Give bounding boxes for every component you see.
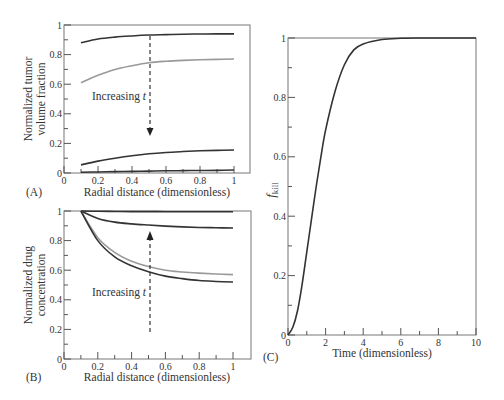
x-tick-label: 8 [436, 337, 441, 348]
panel-b-annotation: Increasing t [92, 286, 147, 299]
series-line-t4 [81, 211, 233, 282]
series-line-t3 [81, 150, 234, 165]
y-tick-label: 0.6 [50, 79, 63, 90]
panel-b-ylabel-line2: concentration [35, 253, 47, 316]
figure-canvas: 00.20.40.60.8100.20.40.60.81 Increasing … [0, 0, 504, 400]
panel-a-series [81, 34, 234, 172]
y-tick-label: 0.8 [50, 49, 63, 60]
x-tick-label: 0 [286, 337, 291, 348]
y-tick-label: 0.4 [50, 108, 63, 119]
y-tick-label: 0.6 [50, 265, 63, 276]
x-tick-label: 1 [231, 361, 236, 372]
x-tick-label: 0.4 [126, 175, 139, 186]
x-tick-label: 1 [232, 175, 237, 186]
panel-b-ylabel-line1: Normalized drug [22, 246, 35, 324]
series-line-t2 [81, 211, 233, 228]
x-tick-label: 0.8 [194, 175, 207, 186]
x-tick-label: 0 [62, 175, 67, 186]
y-tick-label: 0.2 [50, 324, 63, 335]
y-tick-label: 0 [57, 354, 62, 365]
panel-b-label: (B) [26, 371, 42, 384]
arrow-up-icon [147, 231, 154, 240]
x-tick-label: 10 [471, 337, 481, 348]
x-tick-label: 0.2 [92, 175, 105, 186]
panel-a-ylabel-line2: volume fraction [35, 62, 47, 135]
y-tick-label: 0.4 [50, 294, 63, 305]
y-tick-label: 0 [281, 330, 286, 341]
x-tick-label: 0.6 [160, 175, 173, 186]
y-tick-label: 1 [281, 33, 286, 44]
panel-a-label: (A) [26, 186, 42, 199]
panel-b-chart: 00.20.40.60.8100.20.40.60.81 Increasing … [22, 206, 251, 385]
panel-a-annotation: Increasing t [92, 90, 147, 103]
panel-c-label: (C) [263, 351, 279, 364]
y-tick-label: 1 [57, 206, 62, 217]
y-tick-label: 0.6 [274, 151, 287, 162]
y-tick-label: 0.8 [50, 235, 63, 246]
series-line-t1 [81, 34, 234, 43]
y-tick-label: 0 [57, 168, 62, 179]
panel-c-ylabel: fkill [263, 182, 280, 198]
panel-a-ticks: 00.20.40.60.8100.20.40.60.81 [50, 20, 237, 187]
x-tick-label: 0 [62, 361, 67, 372]
panel-b-series [81, 211, 233, 282]
panel-b-xlabel: Radial distance (dimensionless) [84, 371, 230, 384]
y-tick-label: 0.2 [50, 138, 63, 149]
panel-c-series [288, 38, 476, 335]
panel-c-xlabel: Time (dimensionless) [332, 347, 432, 360]
y-tick-label: 0.8 [274, 92, 287, 103]
panel-a-ylabel-line1: Normalized tumor [22, 57, 34, 142]
panel-b-frame [64, 211, 251, 359]
x-tick-label: 2 [323, 337, 328, 348]
series-line-f_kill [288, 38, 476, 335]
y-tick-label: 0.2 [274, 270, 287, 281]
series-line-t2 [81, 59, 234, 83]
panel-c-chart: 024681000.20.40.60.81 fkill Time (dimens… [263, 33, 481, 365]
panel-a-chart: 00.20.40.60.8100.20.40.60.81 Increasing … [22, 20, 250, 200]
arrow-down-icon [147, 128, 154, 136]
panel-c-ticks: 024681000.20.40.60.81 [274, 33, 482, 349]
panel-a-xlabel: Radial distance (dimensionless) [84, 186, 230, 199]
series-line-t4 [81, 170, 234, 172]
series-line-t1 [81, 211, 233, 212]
y-tick-label: 0.4 [274, 211, 287, 222]
y-tick-label: 1 [57, 20, 62, 31]
